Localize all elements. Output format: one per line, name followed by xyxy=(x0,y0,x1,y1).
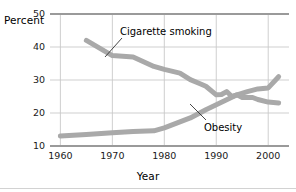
series-label-obesity: Obesity xyxy=(204,122,242,133)
x-tick-label: 1990 xyxy=(196,150,236,161)
series-label-cigarette-smoking: Cigarette smoking xyxy=(120,26,212,37)
series-line-cigarette-smoking xyxy=(86,40,278,103)
y-tick-label: 20 xyxy=(23,107,45,118)
data-series xyxy=(60,40,278,136)
x-tick-label: 1960 xyxy=(40,150,80,161)
x-tick-label: 2000 xyxy=(248,150,288,161)
series-line-obesity xyxy=(60,77,278,136)
footer-divider xyxy=(0,188,296,189)
chart-figure: Percent Year 1020304050 1960197019801990… xyxy=(0,0,296,192)
x-tick-label: 1970 xyxy=(92,150,132,161)
y-tick-label: 40 xyxy=(23,41,45,52)
y-tick-label: 50 xyxy=(23,8,45,19)
x-axis-title: Year xyxy=(0,170,296,182)
x-tick-label: 1980 xyxy=(144,150,184,161)
y-tick-label: 30 xyxy=(23,74,45,85)
